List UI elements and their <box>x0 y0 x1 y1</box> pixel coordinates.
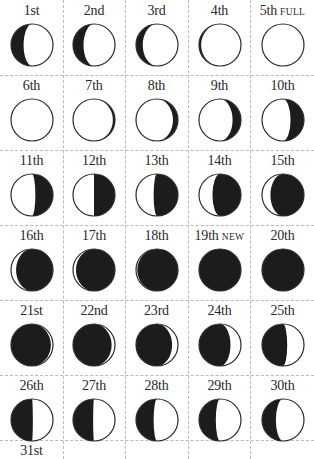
day-label: 20th <box>251 228 314 244</box>
day-cell-26: 26th <box>0 375 63 440</box>
day-label: 17th <box>63 228 125 244</box>
day-cell-12: 12th <box>63 150 125 225</box>
moon-phase-icon <box>71 322 117 368</box>
day-label: 25th <box>251 303 314 319</box>
moon-phase-icon <box>9 172 55 218</box>
day-label: 22nd <box>63 303 125 319</box>
moon-phase-icon <box>71 172 117 218</box>
full-moon-tag: FULL <box>280 7 305 17</box>
day-number: 19th <box>195 228 219 243</box>
day-cell-23: 23rd <box>125 300 188 375</box>
day-number: 14th <box>207 153 231 168</box>
moon-phase-calendar: 1st2nd3rd4th5thFULL6th7th8th9th10th11th1… <box>0 0 314 459</box>
day-label: 4th <box>188 3 251 19</box>
day-number: 13th <box>144 153 168 168</box>
day-number: 15th <box>270 153 294 168</box>
day-cell-7: 7th <box>63 75 125 150</box>
day-label: 10th <box>251 78 314 94</box>
day-label: 14th <box>188 153 251 169</box>
day-label: 29th <box>188 378 251 394</box>
day-cell-19: 19thNEW <box>188 225 251 300</box>
day-number: 18th <box>144 228 168 243</box>
day-cell-15: 15th <box>251 150 314 225</box>
moon-phase-icon <box>71 397 117 443</box>
moon-phase-icon <box>134 322 180 368</box>
moon-phase-icon <box>197 22 243 68</box>
moon-phase-icon <box>9 247 55 293</box>
day-label: 27th <box>63 378 125 394</box>
day-label: 26th <box>0 378 63 394</box>
day-cell-11: 11th <box>0 150 63 225</box>
day-number: 11th <box>20 153 44 168</box>
day-number: 4th <box>211 3 228 18</box>
new-moon-tag: NEW <box>222 232 245 242</box>
day-number: 30th <box>270 378 294 393</box>
moon-phase-icon <box>197 322 243 368</box>
day-cell-4: 4th <box>188 0 251 75</box>
moon-phase-icon <box>9 97 55 143</box>
day-label: 11th <box>0 153 63 169</box>
day-cell-18: 18th <box>125 225 188 300</box>
day-label: 16th <box>0 228 63 244</box>
day-cell-29: 29th <box>188 375 251 440</box>
day-label: 6th <box>0 78 63 94</box>
day-label: 12th <box>63 153 125 169</box>
day-label: 15th <box>251 153 314 169</box>
moon-phase-icon <box>71 22 117 68</box>
day-cell-28: 28th <box>125 375 188 440</box>
moon-phase-icon <box>9 22 55 68</box>
day-cell-27: 27th <box>63 375 125 440</box>
moon-phase-icon <box>197 397 243 443</box>
day-cell-14: 14th <box>188 150 251 225</box>
moon-phase-icon <box>134 247 180 293</box>
day-cell-30: 30th <box>251 375 314 440</box>
day-label: 31st <box>0 443 63 459</box>
day-number: 23rd <box>144 303 169 318</box>
day-number: 16th <box>19 228 43 243</box>
day-number: 9th <box>211 78 228 93</box>
day-cell-13: 13th <box>125 150 188 225</box>
moon-phase-icon <box>134 22 180 68</box>
day-cell-20: 20th <box>251 225 314 300</box>
moon-phase-icon <box>260 172 306 218</box>
day-cell-1: 1st <box>0 0 63 75</box>
day-cell-3: 3rd <box>125 0 188 75</box>
day-label: 19thNEW <box>188 228 251 244</box>
day-cell-22: 22nd <box>63 300 125 375</box>
day-label: 1st <box>0 3 63 19</box>
day-label: 5thFULL <box>251 3 314 19</box>
day-label: 23rd <box>125 303 188 319</box>
day-number: 25th <box>270 303 294 318</box>
moon-phase-icon <box>71 247 117 293</box>
day-cell-31: 31st <box>0 440 63 459</box>
moon-phase-icon <box>9 397 55 443</box>
day-cell-24: 24th <box>188 300 251 375</box>
day-number: 2nd <box>84 3 104 18</box>
day-number: 3rd <box>147 3 165 18</box>
day-label: 24th <box>188 303 251 319</box>
day-number: 6th <box>23 78 40 93</box>
day-label: 3rd <box>125 3 188 19</box>
day-cell-25: 25th <box>251 300 314 375</box>
day-number: 26th <box>19 378 43 393</box>
day-cell-10: 10th <box>251 75 314 150</box>
moon-phase-icon <box>260 97 306 143</box>
day-cell-2: 2nd <box>63 0 125 75</box>
day-number: 5th <box>260 3 277 18</box>
day-label: 8th <box>125 78 188 94</box>
day-number: 29th <box>207 378 231 393</box>
day-label: 13th <box>125 153 188 169</box>
moon-phase-icon <box>260 247 306 293</box>
day-number: 8th <box>148 78 165 93</box>
day-cell-5: 5thFULL <box>251 0 314 75</box>
moon-phase-icon <box>71 97 117 143</box>
day-number: 1st <box>24 3 40 18</box>
day-number: 12th <box>82 153 106 168</box>
day-cell-9: 9th <box>188 75 251 150</box>
day-cell-17: 17th <box>63 225 125 300</box>
day-number: 21st <box>20 303 43 318</box>
moon-phase-icon <box>134 172 180 218</box>
moon-phase-icon <box>260 22 306 68</box>
moon-phase-icon <box>197 172 243 218</box>
moon-phase-icon <box>9 322 55 368</box>
